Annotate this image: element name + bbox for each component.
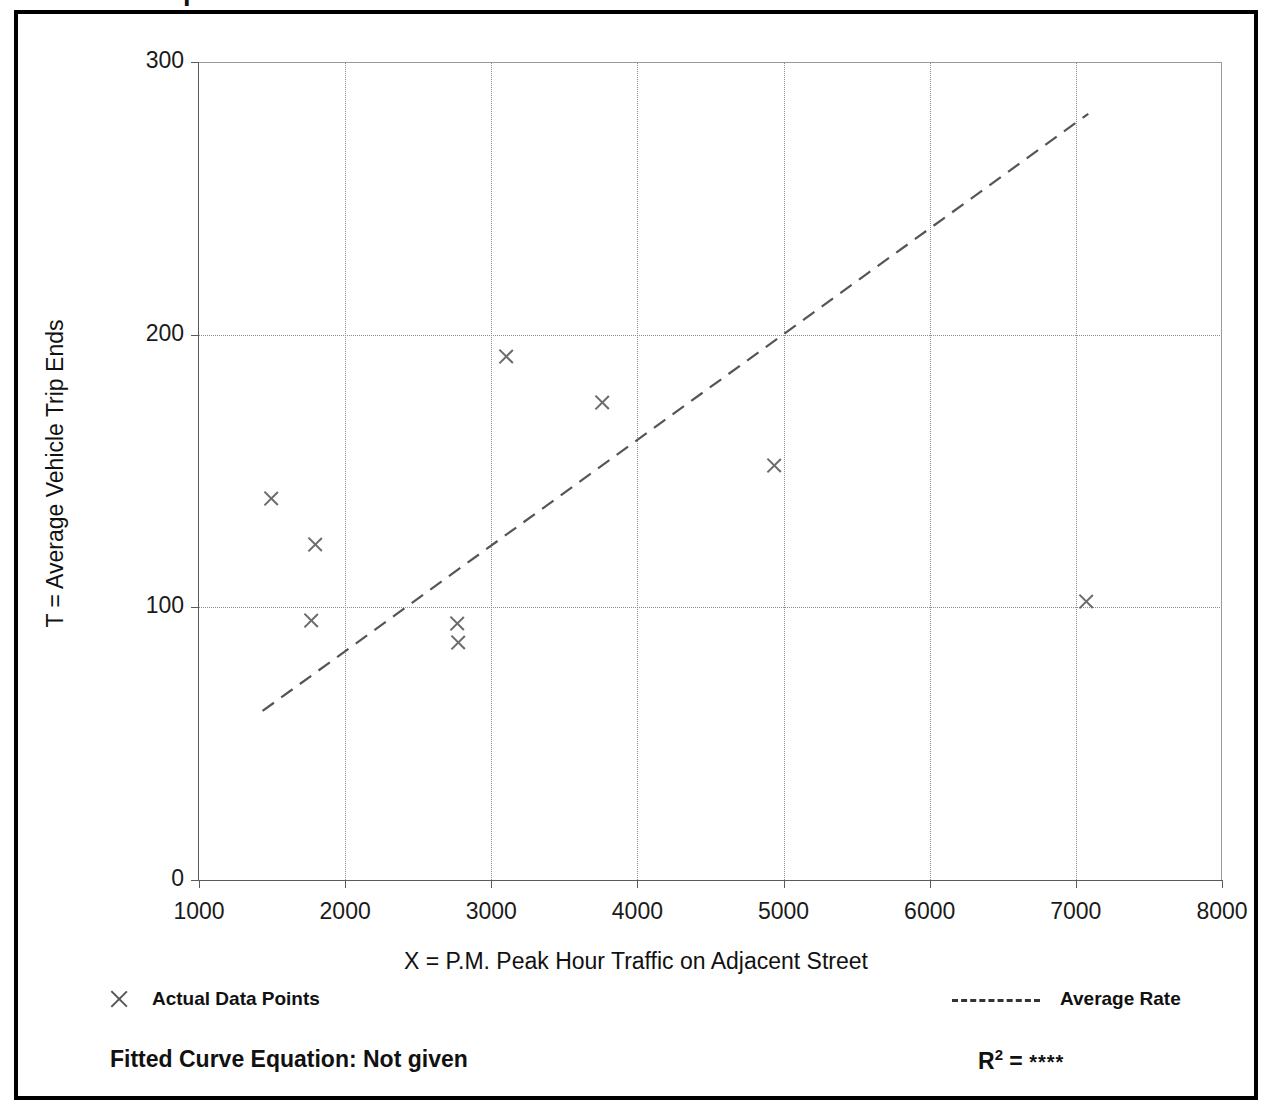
plot-area <box>199 62 1222 880</box>
legend-label-average-rate: Average Rate <box>1060 988 1181 1010</box>
data-point-marker <box>1077 592 1096 611</box>
y-axis-tick-label: 100 <box>9 592 184 619</box>
chart-page: ot and Equation 100020003000400050006000… <box>0 0 1272 1113</box>
data-point-marker <box>261 489 280 508</box>
data-point-marker <box>765 456 784 475</box>
data-point-marker <box>301 611 320 630</box>
r-squared-equals: = <box>1003 1048 1029 1074</box>
data-point-marker <box>592 393 611 412</box>
r-squared-exponent: 2 <box>995 1046 1003 1063</box>
data-point-marker <box>306 535 325 554</box>
x-axis-tick <box>637 880 638 888</box>
y-axis-line <box>198 62 199 881</box>
data-point-marker <box>448 633 467 652</box>
x-axis-tick-label: 6000 <box>870 898 990 925</box>
r-squared-letter: R <box>978 1048 995 1074</box>
y-axis-tick-label: 300 <box>9 47 184 74</box>
y-axis-tick-label: 200 <box>9 320 184 347</box>
legend-label-data-points: Actual Data Points <box>152 988 320 1010</box>
y-axis-tick-label: 0 <box>9 865 184 892</box>
footer: Fitted Curve Equation: Not given R2 = **… <box>0 1046 1272 1086</box>
x-axis-tick <box>199 880 200 888</box>
x-axis-tick-label: 2000 <box>285 898 405 925</box>
x-axis-tick-label: 8000 <box>1162 898 1272 925</box>
x-axis-tick <box>930 880 931 888</box>
legend-item-average-rate: Average Rate <box>952 988 1181 1010</box>
x-axis-title: X = P.M. Peak Hour Traffic on Adjacent S… <box>0 948 1272 975</box>
x-axis-tick-label: 4000 <box>577 898 697 925</box>
x-axis-tick <box>345 880 346 888</box>
x-axis-tick-label: 7000 <box>1016 898 1136 925</box>
plot-container: 1000200030004000500060007000800001002003… <box>0 0 1272 1113</box>
legend-item-data-points: Actual Data Points <box>108 988 320 1010</box>
x-axis-tick <box>491 880 492 888</box>
r-squared-block: R2 = **** <box>978 1046 1064 1075</box>
x-axis-tick <box>784 880 785 888</box>
x-axis-tick-label: 5000 <box>724 898 844 925</box>
data-point-marker <box>496 347 515 366</box>
legend: Actual Data Points Average Rate <box>0 988 1272 1022</box>
r-squared-value: **** <box>1029 1051 1064 1073</box>
x-axis-tick-label: 3000 <box>431 898 551 925</box>
dashed-line-icon <box>952 999 1040 1002</box>
fitted-curve-equation: Fitted Curve Equation: Not given <box>110 1046 468 1073</box>
x-axis-line <box>198 880 1222 881</box>
x-axis-tick <box>1076 880 1077 888</box>
x-marker-icon <box>108 988 130 1010</box>
data-point-marker <box>447 614 466 633</box>
y-axis-title: T = Average Vehicle Trip Ends <box>42 214 69 734</box>
x-axis-tick-label: 1000 <box>139 898 259 925</box>
x-axis-tick <box>1222 880 1223 888</box>
